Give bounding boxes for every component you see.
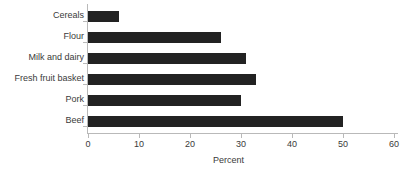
bar [88,32,221,43]
category-label: Fresh fruit basket [2,73,84,84]
y-tick-mark [83,84,87,85]
x-tick-mark [241,134,242,138]
category-label: Beef [2,115,84,126]
x-tick-label: 20 [178,139,202,150]
x-tick-mark [343,134,344,138]
x-tick-mark [139,134,140,138]
x-tick-mark [292,134,293,138]
category-label: Cereals [2,10,84,21]
bar [88,53,246,64]
x-tick-label: 60 [382,139,406,150]
x-tick-label: 0 [76,139,100,150]
category-label: Flour [2,31,84,42]
x-tick-label: 40 [280,139,304,150]
x-tick-label: 30 [229,139,253,150]
category-label: Pork [2,94,84,105]
x-tick-mark [394,134,395,138]
y-tick-mark [83,126,87,127]
x-tick-mark [88,134,89,138]
bar [88,95,241,106]
category-label: Milk and dairy [2,52,84,63]
bar-chart: CerealsFlourMilk and dairyFresh fruit ba… [0,0,415,175]
bar [88,11,119,22]
bar [88,74,256,85]
bar [88,116,343,127]
plot-area [88,5,398,133]
x-tick-label: 10 [127,139,151,150]
x-tick-mark [190,134,191,138]
x-axis-title: Percent [0,155,415,165]
x-axis-line [87,133,398,134]
y-tick-mark [83,42,87,43]
y-tick-mark [83,21,87,22]
y-tick-mark [83,63,87,64]
x-tick-label: 50 [331,139,355,150]
y-tick-mark [83,105,87,106]
category-axis-labels: CerealsFlourMilk and dairyFresh fruit ba… [0,5,84,133]
